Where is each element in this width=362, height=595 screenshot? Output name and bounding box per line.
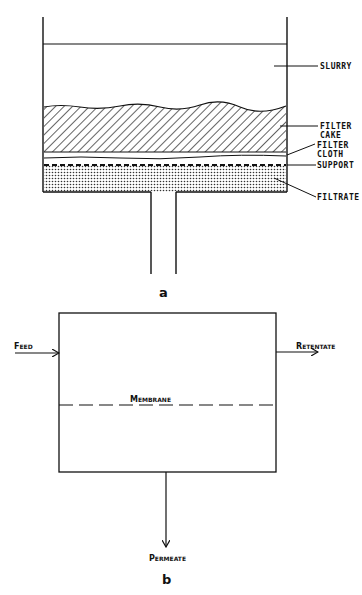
label-filtrate: FILTRATE bbox=[317, 193, 360, 202]
filtration-diagram: SLURRY FILTER CAKE FILTER CLOTH SUPPORT … bbox=[0, 0, 362, 595]
label-filter-cake-line1: FILTER bbox=[320, 122, 352, 131]
filtrate-region bbox=[44, 165, 286, 192]
label-support: SUPPORT bbox=[317, 161, 354, 170]
filter-cloth-leader bbox=[287, 144, 315, 155]
label-retentate: Retentate bbox=[296, 342, 335, 351]
filter-cake-region bbox=[44, 102, 286, 152]
label-filter-cake-line2: CAKE bbox=[320, 131, 341, 140]
filter-cloth-line bbox=[44, 155, 286, 159]
label-slurry: SLURRY bbox=[320, 62, 352, 71]
label-permeate: Permeate bbox=[149, 554, 186, 563]
label-membrane: Membrane bbox=[130, 395, 171, 404]
label-filter-cloth-line1: FILTER bbox=[317, 141, 349, 150]
figure-b-membrane-module: Feed Retentate Membrane Permeate b bbox=[14, 313, 335, 587]
figure-a-cake-filter: SLURRY FILTER CAKE FILTER CLOTH SUPPORT … bbox=[43, 17, 360, 300]
label-filter-cloth-line2: CLOTH bbox=[317, 150, 344, 159]
caption-a: a bbox=[159, 285, 168, 300]
caption-b: b bbox=[162, 572, 171, 587]
membrane-module-box bbox=[59, 313, 276, 472]
label-feed: Feed bbox=[14, 342, 33, 351]
